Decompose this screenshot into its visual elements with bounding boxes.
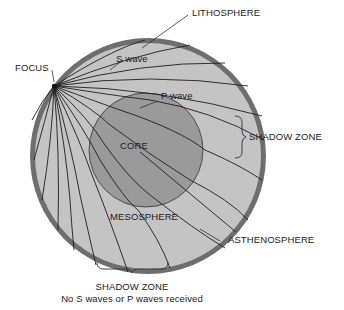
label-shadow-zone-bottom: SHADOW ZONE	[72, 281, 192, 292]
focus-point	[52, 84, 56, 88]
earth-seismic-diagram	[0, 0, 344, 310]
label-shadow-zone-right: SHADOW ZONE	[249, 131, 322, 142]
label-core: CORE	[120, 140, 148, 151]
label-mesosphere: MESOSPHERE	[110, 211, 178, 222]
label-shadow-zone-note: No S waves or P waves received	[32, 293, 232, 304]
label-asthenosphere: ASTHENOSPHERE	[228, 234, 314, 245]
label-s-wave: S wave	[116, 53, 148, 64]
label-p-wave: P wave	[161, 90, 193, 101]
label-lithosphere: LITHOSPHERE	[192, 7, 260, 18]
label-focus: FOCUS	[15, 62, 49, 73]
